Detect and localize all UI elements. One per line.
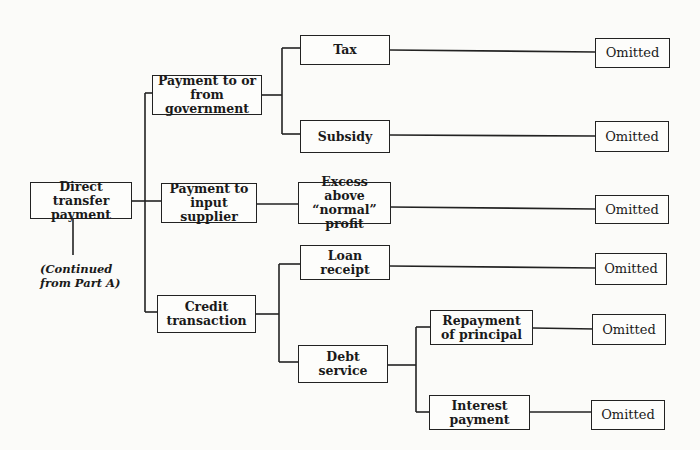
credit-transaction-node: Credit transaction <box>157 295 256 333</box>
tax-node: Tax <box>300 35 390 65</box>
interest-payment-node: Interest payment <box>429 395 530 430</box>
repayment-principal-node: Repayment of principal <box>430 310 533 345</box>
loan-receipt-node: Loan receipt <box>300 245 390 280</box>
omitted-node-tax: Omitted <box>595 38 670 68</box>
excess-profit-node: Excess above “normal” profit <box>298 182 391 224</box>
omitted-node-interest: Omitted <box>591 400 665 430</box>
omitted-node-subsidy: Omitted <box>595 121 669 152</box>
omitted-node-loan: Omitted <box>595 253 667 285</box>
payment-input-supplier-node: Payment to input supplier <box>161 183 257 223</box>
continued-note: (Continued from Part A) <box>40 262 120 290</box>
direct-transfer-payment-node: Direct transfer payment <box>30 182 132 219</box>
payment-government-node: Payment to or from government <box>152 75 262 115</box>
subsidy-node: Subsidy <box>300 120 390 153</box>
omitted-node-excess: Omitted <box>595 195 669 224</box>
omitted-node-repayment: Omitted <box>592 314 666 345</box>
debt-service-node: Debt service <box>298 345 388 383</box>
